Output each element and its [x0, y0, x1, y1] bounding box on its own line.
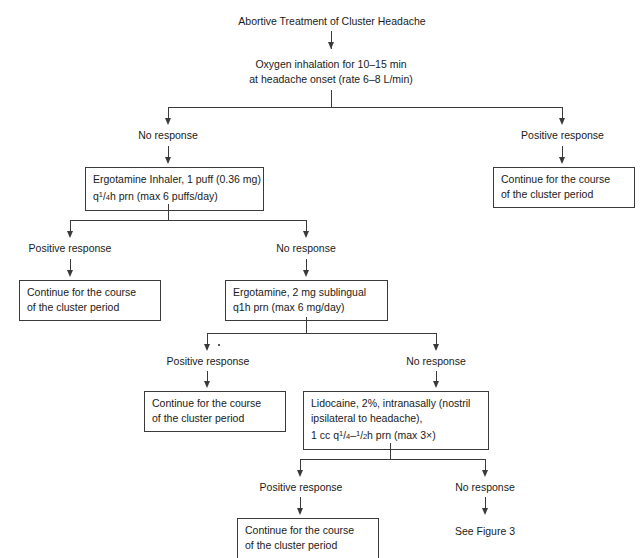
box-level3-continue-line2: of the cluster period — [152, 411, 278, 426]
box-ergotamine-sublingual-line1: Ergotamine, 2 mg sublingual — [233, 285, 380, 300]
box-level1-continue-line2: of the cluster period — [501, 187, 627, 202]
arrowhead-level3-right — [433, 344, 439, 351]
connector-level3-stem — [306, 317, 307, 333]
box-level2-continue-line2: of the cluster period — [27, 300, 153, 315]
box-lidocaine-line2: ipsilateral to headache), — [311, 411, 481, 426]
box-level3-continue-line1: Continue for the course — [152, 396, 278, 411]
label-level2-no-response: No response — [251, 241, 361, 256]
reference-see-figure-3: See Figure 3 — [430, 524, 540, 539]
box-ergotamine-inhaler: Ergotamine Inhaler, 1 puff (0.36 mg) q1/… — [85, 167, 264, 211]
box-ergotamine-sublingual: Ergotamine, 2 mg sublingual q1h prn (max… — [225, 280, 388, 321]
arrowhead-level2-left-box — [67, 270, 73, 277]
label-level3-no-response: No response — [381, 354, 491, 369]
arrowhead-level2-right — [303, 231, 309, 238]
arrowhead-level1-left-box — [165, 157, 171, 164]
box-lidocaine-line1: Lidocaine, 2%, intranasally (nostril — [311, 396, 481, 411]
box-lidocaine-line3: 1 cc q1/4–1/2h prn (max 3×) — [311, 426, 481, 444]
arrowhead-level4-left-box — [297, 508, 303, 515]
arrowhead-level3-left — [204, 344, 210, 351]
arrowhead-level4-right — [482, 470, 488, 477]
figure-title: Abortive Treatment of Cluster Headache — [222, 14, 442, 29]
box-level1-continue: Continue for the course of the cluster p… — [493, 167, 635, 208]
arrowhead-level3-left-box — [204, 381, 210, 388]
arrowhead-level1-right — [559, 118, 565, 125]
step-oxygen-line2: at headache onset (rate 6–8 L/min) — [231, 72, 431, 87]
box-level1-continue-line1: Continue for the course — [501, 172, 627, 187]
box-ergotamine-inhaler-line1: Ergotamine Inhaler, 1 puff (0.36 mg) — [93, 172, 256, 187]
label-level4-positive-response: Positive response — [243, 480, 359, 495]
label-level4-no-response: No response — [430, 480, 540, 495]
connector-level2-stem — [168, 204, 169, 220]
arrowhead-title-to-step1 — [328, 42, 334, 49]
step-oxygen-line1: Oxygen inhalation for 10–15 min — [231, 57, 431, 72]
connector-step1-stem — [331, 90, 332, 107]
label-level1-no-response: No response — [108, 128, 228, 143]
box-lidocaine: Lidocaine, 2%, intranasally (nostril ips… — [303, 391, 489, 450]
figure-title-text: Abortive Treatment of Cluster Headache — [238, 15, 425, 27]
box-level3-continue: Continue for the course of the cluster p… — [144, 391, 286, 432]
box-level2-continue: Continue for the course of the cluster p… — [19, 280, 161, 321]
connector-level4-bus — [300, 459, 485, 460]
arrowhead-level2-left — [67, 231, 73, 238]
arrowhead-level1-left — [165, 118, 171, 125]
connector-level3-bus — [207, 333, 437, 334]
arrowhead-level1-right-box — [559, 157, 565, 164]
flowchart-canvas: Abortive Treatment of Cluster Headache O… — [0, 0, 644, 558]
arrowhead-level4-right-text — [482, 508, 488, 515]
box-level2-continue-line1: Continue for the course — [27, 285, 153, 300]
box-level4-continue-line2: of the cluster period — [245, 538, 371, 553]
connector-level4-stem — [390, 443, 391, 459]
box-ergotamine-inhaler-line2: q1/4h prn (max 6 puffs/day) — [93, 187, 256, 205]
scan-artifact-speck — [218, 344, 220, 346]
arrowhead-level4-left — [297, 470, 303, 477]
box-level4-continue: Continue for the course of the cluster p… — [237, 518, 379, 558]
box-level4-continue-line1: Continue for the course — [245, 523, 371, 538]
box-ergotamine-sublingual-line2: q1h prn (max 6 mg/day) — [233, 300, 380, 315]
connector-level2-bus — [70, 220, 307, 221]
connector-level1-bus — [168, 107, 563, 108]
label-level1-positive-response: Positive response — [505, 128, 620, 143]
step-oxygen: Oxygen inhalation for 10–15 min at heada… — [231, 57, 431, 87]
label-level3-positive-response: Positive response — [150, 354, 266, 369]
arrowhead-level2-right-box — [303, 270, 309, 277]
arrowhead-level3-right-box — [433, 381, 439, 388]
label-level2-positive-response: Positive response — [12, 241, 128, 256]
